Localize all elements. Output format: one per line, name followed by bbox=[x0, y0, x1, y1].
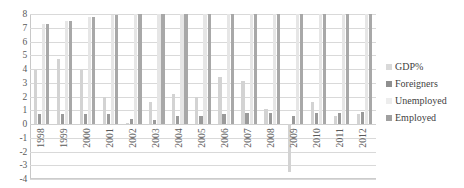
bar bbox=[323, 14, 326, 124]
legend-swatch-icon bbox=[386, 98, 392, 104]
bar bbox=[273, 14, 276, 124]
bar bbox=[61, 114, 64, 124]
y-axis-tick-label: 0 bbox=[3, 120, 27, 129]
bar bbox=[338, 113, 341, 124]
bar bbox=[277, 14, 280, 124]
bar bbox=[300, 14, 303, 124]
bar bbox=[357, 114, 360, 124]
y-axis-tick-label: 4 bbox=[3, 65, 27, 74]
bar bbox=[161, 14, 164, 124]
bar bbox=[84, 114, 87, 124]
legend-item[interactable]: Foreigners bbox=[386, 76, 462, 91]
bar bbox=[296, 14, 299, 124]
y-axis-tick-label: 6 bbox=[3, 38, 27, 47]
bar bbox=[250, 14, 253, 124]
legend-swatch-icon bbox=[386, 64, 392, 70]
bar bbox=[245, 113, 248, 124]
bar bbox=[38, 114, 41, 124]
x-axis-tick-label: 1998 bbox=[37, 128, 46, 148]
bar bbox=[180, 14, 183, 124]
bar bbox=[111, 15, 114, 124]
bar bbox=[138, 14, 141, 124]
bar bbox=[195, 97, 198, 125]
y-axis-tick-label: 8 bbox=[3, 10, 27, 19]
legend-item[interactable]: GDP% bbox=[386, 59, 462, 74]
plot-area bbox=[30, 14, 376, 179]
bar bbox=[57, 59, 60, 124]
bar bbox=[126, 123, 129, 124]
x-axis-tick-label: 2006 bbox=[221, 128, 230, 148]
bar bbox=[130, 119, 133, 125]
bar bbox=[227, 14, 230, 124]
bar bbox=[222, 114, 225, 124]
x-axis-tick-label: 2007 bbox=[244, 128, 253, 148]
chart-container: 876543210-1-2-3-4 1998199920002001200220… bbox=[0, 0, 464, 188]
bar bbox=[292, 116, 295, 124]
chart-legend: GDP%ForeignersUnemployedEmployed bbox=[386, 59, 462, 127]
y-axis-tick-label: -1 bbox=[3, 134, 27, 143]
bar bbox=[369, 14, 372, 124]
bar bbox=[315, 113, 318, 124]
y-axis-tick-label: -2 bbox=[3, 148, 27, 157]
y-axis-tick-label: -3 bbox=[3, 161, 27, 170]
gridline bbox=[30, 124, 376, 125]
legend-item[interactable]: Unemployed bbox=[386, 93, 462, 108]
bar bbox=[107, 114, 110, 124]
bar bbox=[311, 102, 314, 124]
y-axis-tick-label: -4 bbox=[3, 175, 27, 184]
bar bbox=[319, 14, 322, 124]
y-axis-tick-label: 1 bbox=[3, 106, 27, 115]
bar bbox=[241, 81, 244, 124]
bar bbox=[203, 14, 206, 124]
x-axis-tick-label: 2005 bbox=[198, 128, 207, 148]
bar bbox=[254, 14, 257, 124]
bar bbox=[365, 14, 368, 124]
bar bbox=[42, 24, 45, 124]
gridline bbox=[30, 179, 376, 180]
legend-item-label: Unemployed bbox=[395, 96, 447, 106]
legend-item[interactable]: Employed bbox=[386, 110, 462, 125]
bar bbox=[92, 17, 95, 124]
x-axis-tick-label: 2010 bbox=[313, 128, 322, 148]
bar bbox=[269, 113, 272, 124]
bar bbox=[218, 77, 221, 124]
bar bbox=[231, 14, 234, 124]
x-axis-tick-label: 2001 bbox=[106, 128, 115, 148]
legend-item-label: Foreigners bbox=[395, 79, 438, 89]
gridline bbox=[30, 165, 376, 166]
legend-item-label: Employed bbox=[395, 113, 436, 123]
x-axis-tick-label: 2002 bbox=[129, 128, 138, 148]
bar bbox=[334, 116, 337, 124]
y-axis-labels: 876543210-1-2-3-4 bbox=[0, 0, 30, 188]
bar bbox=[176, 116, 179, 124]
legend-swatch-icon bbox=[386, 81, 392, 87]
bar bbox=[264, 109, 267, 124]
x-axis-tick-label: 2004 bbox=[175, 128, 184, 148]
x-axis-tick-label: 2003 bbox=[152, 128, 161, 148]
bar bbox=[208, 14, 211, 124]
gridline bbox=[30, 152, 376, 153]
x-axis-tick-label: 2012 bbox=[359, 128, 368, 148]
bar bbox=[342, 14, 345, 124]
bar bbox=[80, 70, 83, 124]
bar bbox=[346, 14, 349, 124]
bar bbox=[153, 120, 156, 124]
bar bbox=[69, 21, 72, 124]
bar bbox=[115, 15, 118, 124]
bar bbox=[157, 14, 160, 124]
x-axis-tick-label: 2011 bbox=[336, 128, 345, 147]
x-axis-tick-label: 2000 bbox=[83, 128, 92, 148]
legend-swatch-icon bbox=[386, 115, 392, 121]
bar bbox=[184, 14, 187, 124]
x-axis-tick-label: 1999 bbox=[60, 128, 69, 148]
y-axis-tick-label: 5 bbox=[3, 51, 27, 60]
bar bbox=[149, 102, 152, 124]
bar bbox=[88, 17, 91, 124]
bar bbox=[199, 116, 202, 124]
bar bbox=[34, 70, 37, 124]
legend-item-label: GDP% bbox=[395, 62, 423, 72]
x-axis-tick-label: 2009 bbox=[290, 128, 299, 148]
x-axis-tick-label: 2008 bbox=[267, 128, 276, 148]
bar bbox=[134, 14, 137, 124]
bar bbox=[103, 97, 106, 125]
